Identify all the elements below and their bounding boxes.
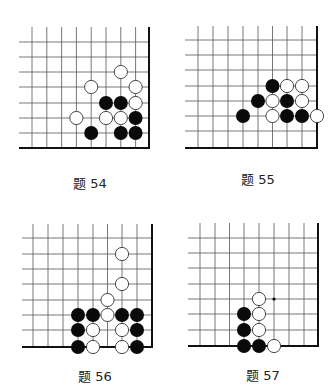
black-stone xyxy=(99,96,113,110)
white-stone xyxy=(115,247,128,260)
black-stone xyxy=(130,323,144,337)
black-stone xyxy=(266,79,280,93)
white-stone xyxy=(115,340,128,353)
white-stone xyxy=(310,109,323,122)
black-stone xyxy=(237,307,251,321)
white-stone xyxy=(252,323,265,336)
white-stone xyxy=(114,111,127,124)
black-stone xyxy=(130,340,144,354)
board-problem-55 xyxy=(185,26,324,149)
black-stone xyxy=(236,109,250,123)
white-stone xyxy=(129,96,142,109)
black-stone xyxy=(237,339,251,353)
white-stone xyxy=(295,94,308,107)
white-stone xyxy=(114,65,127,78)
problem-label-54: 题 54 xyxy=(73,173,107,192)
white-stone xyxy=(280,79,293,92)
black-stone xyxy=(114,96,128,110)
go-problems-canvas xyxy=(0,0,335,386)
white-stone xyxy=(99,111,112,124)
board-problem-54 xyxy=(19,27,150,149)
black-stone xyxy=(280,109,294,123)
black-stone xyxy=(71,323,85,337)
black-stone xyxy=(71,308,85,322)
white-stone xyxy=(101,308,114,321)
black-stone xyxy=(251,94,265,108)
white-stone xyxy=(295,79,308,92)
board-problem-56 xyxy=(22,224,153,354)
black-stone xyxy=(71,340,85,354)
white-stone xyxy=(115,277,128,290)
black-stone xyxy=(86,308,100,322)
dot-mark xyxy=(272,297,275,300)
black-stone xyxy=(130,308,144,322)
black-stone xyxy=(295,109,309,123)
white-stone xyxy=(86,323,99,336)
white-stone xyxy=(86,340,99,353)
white-stone xyxy=(129,80,142,93)
black-stone xyxy=(115,308,129,322)
board-problem-57 xyxy=(188,223,319,353)
black-stone xyxy=(129,126,143,140)
white-stone xyxy=(101,293,114,306)
white-stone xyxy=(252,307,265,320)
black-stone xyxy=(129,111,143,125)
white-stone xyxy=(85,80,98,93)
white-stone xyxy=(115,323,128,336)
white-stone xyxy=(70,111,83,124)
white-stone xyxy=(266,109,279,122)
black-stone xyxy=(280,94,294,108)
black-stone xyxy=(84,126,98,140)
white-stone xyxy=(266,94,279,107)
problem-label-57: 题 57 xyxy=(246,365,280,384)
black-stone xyxy=(252,339,266,353)
white-stone xyxy=(267,339,280,352)
problem-label-56: 题 56 xyxy=(78,366,112,385)
white-stone xyxy=(252,292,265,305)
problem-label-55: 题 55 xyxy=(241,169,275,188)
black-stone xyxy=(114,126,128,140)
black-stone xyxy=(237,323,251,337)
